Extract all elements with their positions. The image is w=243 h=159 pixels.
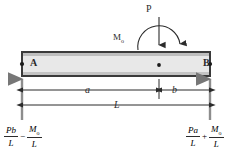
dimension-label-b: b xyxy=(172,85,177,95)
reaction-left-term1-numerator: Pb xyxy=(4,125,18,135)
moment-subscript: o xyxy=(37,130,40,136)
point-load-label: P xyxy=(146,4,152,14)
support-node-a xyxy=(20,62,24,66)
reaction-right-term2-denominator: L xyxy=(212,139,221,149)
reaction-right-term1-denominator: L xyxy=(188,138,197,148)
moment-label-subscript: o xyxy=(121,38,124,44)
fraction-bar xyxy=(4,136,18,137)
reaction-right-term1-numerator: Pa xyxy=(186,125,200,135)
moment-subscript: o xyxy=(219,130,222,136)
reaction-left-term2-numerator: Mo xyxy=(27,124,42,136)
reaction-left-term2: Mo L xyxy=(27,124,42,149)
fraction-bar xyxy=(209,137,224,138)
reaction-right-operator: + xyxy=(202,131,207,141)
reaction-left-term2-denominator: L xyxy=(30,139,39,149)
moment-label: Mo xyxy=(113,33,124,44)
moment-label-text: M xyxy=(113,32,121,42)
dimension-label-length: L xyxy=(114,100,120,110)
reaction-left-term1: Pb L xyxy=(4,125,18,148)
fraction-bar xyxy=(186,136,200,137)
support-label-b: B xyxy=(203,58,210,68)
moment-symbol: M xyxy=(211,124,219,134)
reaction-right-term2-numerator: Mo xyxy=(209,124,224,136)
reaction-formula-left: Pb L − Mo L xyxy=(4,124,42,149)
moment-symbol: M xyxy=(29,124,37,134)
load-application-point xyxy=(157,63,161,67)
dimension-label-a: a xyxy=(85,85,90,95)
reaction-formula-right: Pa L + Mo L xyxy=(186,124,224,149)
beam-bottom-shading xyxy=(23,72,209,75)
reaction-right-term1: Pa L xyxy=(186,125,200,148)
reaction-left-operator: − xyxy=(20,131,25,141)
fraction-bar xyxy=(27,137,42,138)
support-label-a: A xyxy=(30,58,37,68)
reaction-right-term2: Mo L xyxy=(209,124,224,149)
beam-diagram: P Mo A B a b L Pb L − Mo L Pa L + Mo L xyxy=(0,0,243,159)
beam-top-shading xyxy=(23,53,209,56)
reaction-left-term1-denominator: L xyxy=(6,138,15,148)
